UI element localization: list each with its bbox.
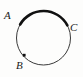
point-label-a: A	[4, 10, 11, 21]
bold-arc-A-to-C	[20, 11, 67, 25]
point-marker-B	[23, 54, 26, 57]
point-label-c: C	[70, 22, 77, 33]
circle-arc-diagram: A C B	[0, 0, 83, 77]
point-label-b: B	[16, 60, 23, 71]
diagram-canvas	[0, 0, 83, 77]
